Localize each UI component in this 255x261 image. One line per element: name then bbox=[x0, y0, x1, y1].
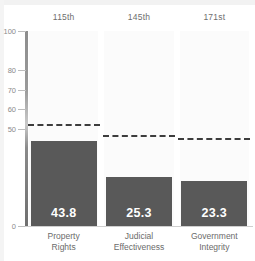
category-label-property-rights: PropertyRights bbox=[26, 231, 101, 253]
category-label-judicial-effectiveness: JudicialEffectiveness bbox=[101, 231, 176, 253]
plot-area: 43.8 25.3 23.3 bbox=[26, 31, 252, 226]
bar-chart: 115th 145th 171st 43.8 25.3 bbox=[0, 0, 255, 261]
category-label-line: GovernmentIntegrity bbox=[191, 231, 238, 252]
bar-value-judicial-effectiveness: 25.3 bbox=[126, 206, 152, 220]
reference-line-government-integrity bbox=[178, 138, 250, 140]
rank-label-row: 115th 145th 171st bbox=[26, 9, 252, 25]
y-tick-mark bbox=[18, 129, 26, 130]
rank-label-judicial-effectiveness: 145th bbox=[101, 9, 176, 25]
category-label-government-integrity: GovernmentIntegrity bbox=[177, 231, 252, 253]
reference-line-judicial-effectiveness bbox=[103, 135, 175, 137]
y-tick-label: 0 bbox=[0, 222, 16, 231]
bar-slot-property-rights: 43.8 bbox=[29, 31, 98, 226]
rank-label-government-integrity: 171st bbox=[177, 9, 252, 25]
y-tick-label: 60 bbox=[0, 105, 16, 114]
y-tick-label: 80 bbox=[0, 66, 16, 75]
top-border-band bbox=[0, 0, 255, 5]
y-tick-mark bbox=[18, 90, 26, 91]
y-tick-label: 70 bbox=[0, 85, 16, 94]
bar-group: 43.8 25.3 23.3 bbox=[26, 31, 252, 226]
category-label-line: JudicialEffectiveness bbox=[114, 231, 164, 252]
bar-government-integrity: 23.3 bbox=[181, 181, 247, 226]
bar-judicial-effectiveness: 25.3 bbox=[106, 177, 172, 226]
category-label-line: PropertyRights bbox=[48, 231, 80, 252]
category-label-row: PropertyRights JudicialEffectiveness Gov… bbox=[26, 231, 252, 253]
rank-label-property-rights: 115th bbox=[26, 9, 101, 25]
bar-property-rights: 43.8 bbox=[31, 141, 97, 226]
y-tick-label: 50 bbox=[0, 124, 16, 133]
bar-value-government-integrity: 23.3 bbox=[202, 206, 228, 220]
y-tick-label: 100 bbox=[0, 27, 16, 36]
bar-value-property-rights: 43.8 bbox=[51, 206, 77, 220]
bar-slot-judicial-effectiveness: 25.3 bbox=[104, 31, 173, 226]
bar-slot-government-integrity: 23.3 bbox=[180, 31, 249, 226]
y-tick-mark bbox=[18, 109, 26, 110]
y-tick-mark bbox=[18, 70, 26, 71]
reference-line-property-rights bbox=[28, 124, 100, 126]
x-axis-baseline bbox=[25, 226, 253, 227]
y-tick-mark bbox=[18, 31, 26, 32]
